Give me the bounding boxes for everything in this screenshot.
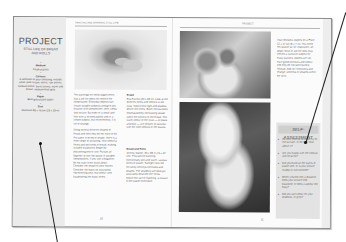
right-callout-dot <box>304 141 307 144</box>
project-sidebar: PROJECT STILL LIFE OF BREAD AND ROLLS • … <box>13 17 66 226</box>
apples-painting-image <box>180 31 271 99</box>
self-assessment-item: When viewed from a distance, does your p… <box>279 175 318 189</box>
self-assessment-item: Did you build up the layers of pastel we… <box>279 162 318 172</box>
right-header-rule <box>180 27 320 29</box>
self-assessment-box: SELF-ASSESSMENT Do your objects sit prop… <box>276 123 321 219</box>
left-page-number: 10 <box>100 217 103 221</box>
right-running-header: PROJECT <box>242 22 254 25</box>
self-assessment-item: Do your objects sit properly on the surf… <box>279 138 318 148</box>
project-subtitle: STILL LIFE OF BREAD AND ROLLS <box>18 47 64 55</box>
self-assessment-item: Are you happy with the colours and textu… <box>279 151 318 158</box>
right-page-edge <box>322 19 331 228</box>
materials-list: • Medium Chalk pastels • Colours A selec… <box>17 61 63 112</box>
left-running-header: PAINTING AND DRAWING STILL LIFE <box>75 21 167 25</box>
apples-caption: Jean Winslow. Apples on a Plate 12 x 17 … <box>276 39 316 113</box>
project-title: PROJECT <box>18 36 64 46</box>
spine-gutter <box>171 18 173 227</box>
self-assessment-list: Do your objects sit properly on the surf… <box>279 138 318 203</box>
self-assessment-item: Did you use colour for your shadows, or … <box>279 193 318 200</box>
caption-bread: Bread Rita Farrow (20 x 28 in). Look at … <box>126 94 168 134</box>
materials-value: Minimum 38 x 46 cm (15 x 18 in) <box>17 109 63 113</box>
left-callout-dot <box>39 142 42 145</box>
right-page-number: 11 <box>261 218 264 222</box>
left-body-text: The paintings on these pages show that a… <box>73 93 118 211</box>
caption-bread-and-rolls: Bread and Rolls Jeremy Galton, 30 x 38 i… <box>126 148 168 200</box>
hats-painting-image <box>179 102 271 213</box>
left-header-rule <box>75 25 167 27</box>
self-assessment-title: SELF-ASSESSMENT <box>278 126 318 134</box>
book-spread: PROJECT STILL LIFE OF BREAD AND ROLLS • … <box>12 16 332 229</box>
materials-value: A selection of your choosing, include wh… <box>18 78 64 92</box>
bread-painting-image <box>75 29 167 90</box>
